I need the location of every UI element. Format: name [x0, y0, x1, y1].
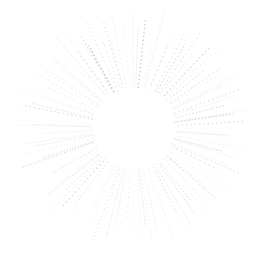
sunburst-graphic: [0, 0, 268, 263]
sunburst-canvas: [0, 0, 268, 263]
canvas-background: [0, 0, 268, 263]
